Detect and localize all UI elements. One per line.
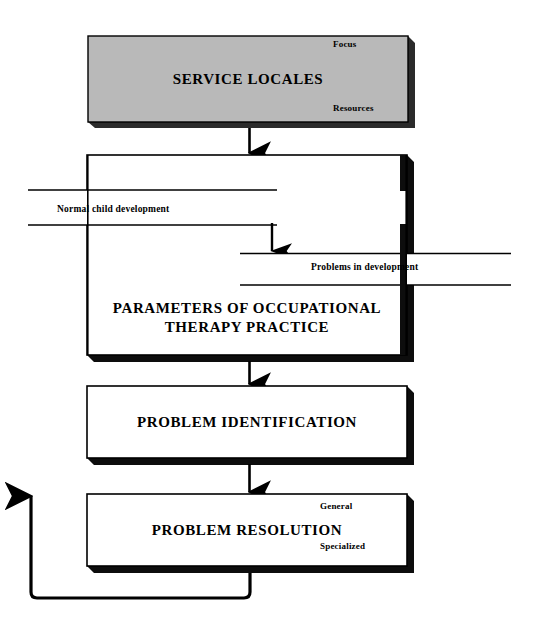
node-problem-resolution	[87, 494, 407, 566]
flowchart-diagram: SERVICE LOCALES Focus Resources PARAMETE…	[0, 0, 539, 635]
band-label-problems-in-development: Problems in development	[311, 262, 418, 272]
corner-label-specialized: Specialized	[320, 541, 365, 551]
flowchart-canvas	[0, 0, 539, 635]
corner-label-general: General	[320, 501, 352, 511]
node-problem-identification	[87, 386, 407, 458]
band-label-normal-child-development: Normal child development	[57, 204, 169, 214]
corner-label-resources: Resources	[333, 103, 374, 113]
corner-label-focus: Focus	[333, 39, 357, 49]
